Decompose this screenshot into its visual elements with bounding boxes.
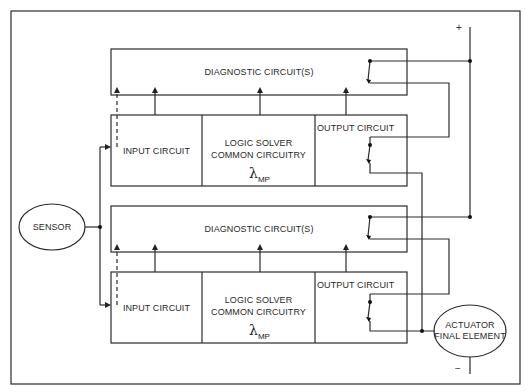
logic-solver-label-2b: COMMON CIRCUITRY [202,306,315,318]
negative-terminal: − [455,363,461,374]
output-circuit-label-2: OUTPUT CIRCUIT [317,279,397,291]
sensor-label: SENSOR [19,221,85,233]
input-circuit-label-2: INPUT CIRCUIT [111,302,202,314]
input-circuit-label-1: INPUT CIRCUIT [111,145,202,157]
lambda-mp-2: λMP [249,322,270,341]
logic-solver-label-1a: LOGIC SOLVER [202,137,315,149]
actuator-label-2: FINAL ELEMENT [434,330,506,342]
diagram-canvas: DIAGNOSTIC CIRCUIT(S) INPUT CIRCUIT LOGI… [0,0,526,392]
lambda-mp-1: λMP [249,165,270,184]
diagnostic-label-1: DIAGNOSTIC CIRCUIT(S) [111,66,407,78]
logic-solver-label-2a: LOGIC SOLVER [202,294,315,306]
diagnostic-label-2: DIAGNOSTIC CIRCUIT(S) [111,223,407,235]
positive-terminal: + [456,22,462,33]
logic-solver-label-1b: COMMON CIRCUITRY [202,149,315,161]
output-circuit-label-1: OUTPUT CIRCUIT [317,122,397,134]
